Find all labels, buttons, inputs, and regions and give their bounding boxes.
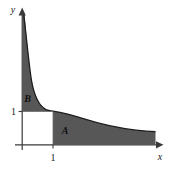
region-label-a: A — [61, 125, 69, 136]
y-axis-tick-label-1: 1 — [11, 106, 16, 117]
hyperbola-plot: 1 1 y x B A — [0, 0, 171, 170]
hyperbola-curve — [24, 14, 156, 132]
x-axis-tick-label-1: 1 — [51, 152, 56, 163]
x-axis-label: x — [157, 151, 163, 162]
figure-container: 1 1 y x B A — [0, 0, 171, 170]
y-axis-label: y — [10, 4, 16, 15]
region-a-fill — [53, 111, 156, 144]
x-axis-arrowhead — [156, 141, 164, 148]
region-label-b: B — [23, 93, 31, 104]
y-axis-arrowhead — [19, 8, 26, 16]
